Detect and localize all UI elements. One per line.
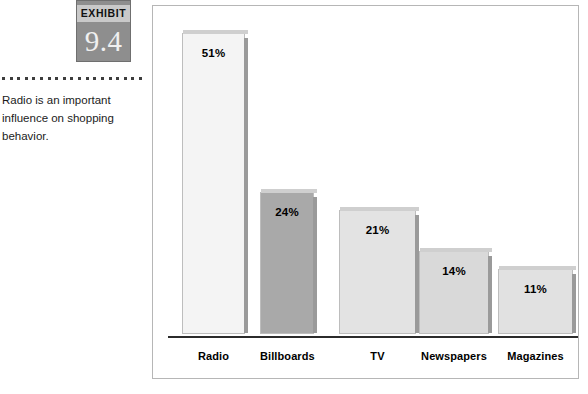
bar-billboards: 24% <box>260 192 314 334</box>
bar-value-label: 11% <box>499 283 572 295</box>
bar-magazines: 11% <box>498 269 573 334</box>
dotted-divider <box>2 77 142 81</box>
bar-tv: 21% <box>339 210 416 334</box>
bar-value-label: 14% <box>420 265 488 277</box>
bar-body: 21% <box>339 210 416 334</box>
x-axis-label-newspapers: Newspapers <box>419 350 489 362</box>
bar-side-shadow <box>313 197 317 333</box>
bar-value-label: 24% <box>261 206 313 218</box>
bar-top-highlight <box>420 248 492 252</box>
exhibit-caption: Radio is an important influence on shopp… <box>2 91 138 145</box>
exhibit-label-band: EXHIBIT <box>77 5 130 22</box>
exhibit-badge: EXHIBIT 9.4 <box>76 0 131 62</box>
bar-top-highlight <box>340 207 419 211</box>
exhibit-word: EXHIBIT <box>81 8 127 19</box>
bar-value-label: 21% <box>340 224 415 236</box>
bar-top-highlight <box>499 266 576 270</box>
exhibit-sidebar: EXHIBIT 9.4 Radio is an important influe… <box>0 0 146 394</box>
chart-panel: 51% 24% 21% 14% <box>152 5 579 379</box>
bar-top-highlight <box>261 189 317 193</box>
bar-body: 11% <box>498 269 573 334</box>
bar-side-shadow <box>572 274 576 333</box>
bar-radio: 51% <box>182 33 245 334</box>
bar-newspapers: 14% <box>419 251 489 334</box>
bar-side-shadow <box>244 38 248 333</box>
x-axis-label-radio: Radio <box>182 350 245 362</box>
x-axis-label-billboards: Billboards <box>260 350 314 362</box>
plot-area: 51% 24% 21% 14% <box>153 6 578 378</box>
bar-body: 24% <box>260 192 314 334</box>
bar-body: 14% <box>419 251 489 334</box>
bar-top-highlight <box>183 30 248 34</box>
x-axis-label-magazines: Magazines <box>498 350 573 362</box>
bar-body: 51% <box>182 33 245 334</box>
exhibit-number: 9.4 <box>77 21 130 61</box>
bar-side-shadow <box>488 256 492 333</box>
bar-value-label: 51% <box>183 47 244 59</box>
x-axis-line <box>168 336 578 338</box>
x-axis-label-tv: TV <box>339 350 416 362</box>
